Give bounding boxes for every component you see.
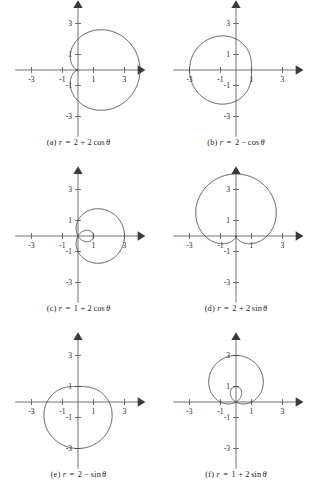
caption-equals: = <box>223 304 230 313</box>
caption-theta: θ <box>101 470 106 479</box>
caption-index: (f) <box>205 470 214 479</box>
y-tick-label: -3 <box>223 112 230 121</box>
y-tick-label: 3 <box>68 185 72 194</box>
caption-terms: 2 − <box>78 470 89 479</box>
x-tick-label: 1 <box>249 407 253 416</box>
y-axis-arrow <box>231 0 240 8</box>
y-tick-label: -1 <box>223 413 230 422</box>
caption-terms: 1 + 2 <box>232 470 250 479</box>
x-tick-label: -3 <box>186 241 193 250</box>
caption-theta: θ <box>105 304 110 313</box>
x-axis-arrow <box>295 65 303 74</box>
caption-variable: r <box>217 304 220 313</box>
x-tick-label: -3 <box>28 75 35 84</box>
caption-terms: 2 + 2 <box>74 138 92 147</box>
polar-plot-e: -3-11331-1-3 <box>0 332 157 470</box>
y-tick-label: 1 <box>226 50 230 59</box>
polar-curves-figure: -3-11331-1-3(a) r = 2 + 2cosθ-3-11331-1-… <box>0 0 315 504</box>
caption-function: cos <box>246 138 259 147</box>
y-axis-arrow <box>73 166 82 174</box>
y-tick-label: -1 <box>223 247 230 256</box>
caption-function: sin <box>250 304 262 313</box>
plot-area-e: -3-11331-1-3 <box>0 332 157 470</box>
caption-variable: r <box>216 470 219 479</box>
polar-plot-f: -3-11331-1-3 <box>158 332 315 470</box>
x-tick-label: -3 <box>28 241 35 250</box>
y-tick-label: 3 <box>226 19 230 28</box>
plot-area-d: -3-11331-1-3 <box>158 166 315 304</box>
polar-panel-d: -3-11331-1-3(d) r = 2 + 2sinθ <box>157 166 315 332</box>
x-tick-label: 3 <box>280 75 284 84</box>
y-axis-arrow <box>73 0 82 8</box>
x-tick-label: 3 <box>123 75 127 84</box>
x-axis-arrow <box>138 231 146 240</box>
y-tick-label: -1 <box>66 413 73 422</box>
x-tick-label: 1 <box>92 241 96 250</box>
plot-area-b: -3-11331-1-3 <box>158 0 315 138</box>
panel-caption: (d) r = 2 + 2sinθ <box>205 305 268 313</box>
caption-index: (a) <box>47 138 57 147</box>
y-axis-arrow <box>231 166 240 174</box>
polar-panel-e: -3-11331-1-3(e) r = 2 −sinθ <box>0 332 157 504</box>
plot-area-c: -3-11331-1-3 <box>0 166 157 304</box>
polar-panel-f: -3-11331-1-3(f) r = 1 + 2sinθ <box>157 332 315 504</box>
caption-variable: r <box>63 470 66 479</box>
panel-caption: (a) r = 2 + 2cosθ <box>47 139 111 147</box>
y-tick-label: -3 <box>66 112 73 121</box>
y-tick-label: 3 <box>68 351 72 360</box>
caption-index: (d) <box>205 304 215 313</box>
caption-terms: 1 + 2 <box>74 304 92 313</box>
x-tick-label: -3 <box>186 407 193 416</box>
x-tick-label: 3 <box>280 407 284 416</box>
x-axis-arrow <box>295 231 303 240</box>
caption-theta: θ <box>261 470 266 479</box>
y-tick-label: 3 <box>68 19 72 28</box>
x-tick-label: 3 <box>123 407 127 416</box>
caption-function: cos <box>92 138 105 147</box>
caption-variable: r <box>59 304 62 313</box>
y-tick-label: 1 <box>226 382 230 391</box>
x-tick-label: 1 <box>92 75 96 84</box>
caption-equals: = <box>222 470 229 479</box>
polar-panel-a: -3-11331-1-3(a) r = 2 + 2cosθ <box>0 0 157 166</box>
caption-index: (c) <box>47 304 57 313</box>
y-tick-label: -3 <box>223 444 230 453</box>
x-tick-label: 1 <box>92 407 96 416</box>
y-tick-label: 1 <box>226 216 230 225</box>
caption-terms: 2 + 2 <box>232 304 250 313</box>
y-axis-arrow <box>231 332 240 340</box>
caption-equals: = <box>64 138 71 147</box>
caption-function: sin <box>89 470 101 479</box>
panel-caption: (e) r = 2 −sinθ <box>51 471 107 479</box>
polar-panel-c: -3-11331-1-3(c) r = 1 + 2cosθ <box>0 166 157 332</box>
x-axis-arrow <box>295 397 303 406</box>
x-axis-arrow <box>138 397 146 406</box>
caption-variable: r <box>59 138 62 147</box>
y-tick-label: -1 <box>223 81 230 90</box>
caption-theta: θ <box>105 138 110 147</box>
caption-equals: = <box>64 304 71 313</box>
caption-variable: r <box>220 138 223 147</box>
y-tick-label: -3 <box>66 278 73 287</box>
caption-index: (b) <box>207 138 217 147</box>
caption-function: cos <box>92 304 105 313</box>
y-tick-label: 1 <box>68 216 72 225</box>
y-tick-label: -1 <box>66 247 73 256</box>
polar-plot-c: -3-11331-1-3 <box>0 166 157 304</box>
x-tick-label: 3 <box>280 241 284 250</box>
caption-function: sin <box>250 470 262 479</box>
caption-equals: = <box>68 470 75 479</box>
plot-area-f: -3-11331-1-3 <box>158 332 315 470</box>
y-tick-label: -3 <box>223 278 230 287</box>
caption-theta: θ <box>262 304 267 313</box>
x-tick-label: -3 <box>28 407 35 416</box>
polar-plot-b: -3-11331-1-3 <box>158 0 315 138</box>
caption-equals: = <box>225 138 232 147</box>
panel-caption: (c) r = 1 + 2cosθ <box>47 305 111 313</box>
polar-plot-d: -3-11331-1-3 <box>158 166 315 304</box>
polar-panel-b: -3-11331-1-3(b) r = 2 −cosθ <box>157 0 315 166</box>
y-axis-arrow <box>73 332 82 340</box>
x-tick-label: 1 <box>249 241 253 250</box>
caption-theta: θ <box>259 138 264 147</box>
y-tick-label: -3 <box>66 444 73 453</box>
